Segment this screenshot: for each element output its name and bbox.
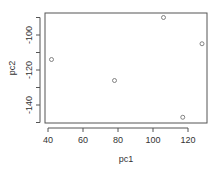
x-axis: 406080100120 <box>43 128 196 145</box>
scatter-plot: 406080100120 -140-120-100 pc1 pc2 <box>0 0 218 171</box>
y-tick-label: -100 <box>24 26 34 44</box>
y-axis-title: pc2 <box>7 61 17 76</box>
y-tick-label: -120 <box>24 61 34 79</box>
x-tick-label: 80 <box>113 135 123 145</box>
data-point <box>200 42 204 46</box>
data-point <box>113 79 117 83</box>
data-point <box>162 16 166 20</box>
x-tick-label: 40 <box>43 135 53 145</box>
data-point <box>50 58 54 62</box>
plot-frame <box>45 13 207 123</box>
y-tick-label: -140 <box>24 96 34 114</box>
x-axis-title: pc1 <box>119 154 134 164</box>
x-tick-label: 120 <box>180 135 195 145</box>
y-axis: -140-120-100 <box>24 18 40 123</box>
x-tick-label: 60 <box>78 135 88 145</box>
x-tick-label: 100 <box>145 135 160 145</box>
data-point <box>181 115 185 119</box>
data-points <box>50 16 205 120</box>
